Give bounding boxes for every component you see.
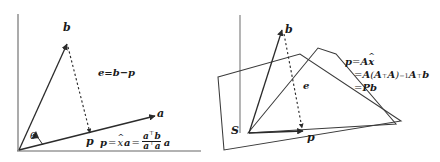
- label-vector-b-right: b: [285, 24, 293, 35]
- eq-left-equals-2: =: [132, 138, 140, 148]
- label-error-equation-left: e=b−p: [98, 68, 135, 78]
- equation-projection-subspace: p = A ^ x = A ( A⊤ A )−1 A⊤ b = P b: [345, 57, 429, 96]
- equation-projection-line: p = ^ x a = a⊤b a⊤a a: [100, 133, 170, 153]
- label-point-p-right: p: [307, 132, 315, 143]
- eq-right-P: P: [362, 83, 370, 93]
- left-panel-graphics: [17, 14, 201, 151]
- error-vector-right: [284, 34, 302, 128]
- eq-left-equals-1: =: [108, 138, 116, 148]
- eq-left-hat-mark: ^: [117, 133, 123, 141]
- eq-left-xhat-group: ^ x: [117, 138, 123, 148]
- eq-right-A-2: A: [362, 70, 370, 80]
- eq-right-A-1: A: [360, 57, 368, 67]
- vector-b-left: [19, 44, 67, 150]
- label-subspace-S: S: [231, 125, 239, 136]
- eq-right-A-4: A: [409, 70, 417, 80]
- eq-right-xhat-group: ^ x: [368, 57, 374, 67]
- eq-left-times-a: a: [124, 138, 130, 148]
- error-vector-left: [68, 47, 90, 133]
- eq-right-A-transpose: A: [374, 70, 382, 80]
- eq-right-b-2: b: [422, 70, 429, 80]
- label-angle-theta: θ: [30, 131, 36, 141]
- equation-row-3: = P b: [345, 83, 429, 96]
- eq-left-denominator: a⊤a: [142, 141, 161, 151]
- label-error-e-right: e: [303, 81, 309, 91]
- eq-right-lhs-p: p: [345, 57, 352, 67]
- eq-left-fraction: a⊤b a⊤a: [142, 132, 162, 152]
- label-vector-a-left: a: [157, 108, 164, 119]
- eq-left-num-b: b: [154, 131, 160, 141]
- figure-canvas: b a p θ e=b−p p = ^ x a = a⊤b a⊤a a b p …: [0, 0, 440, 162]
- eq-right-b-3: b: [370, 83, 377, 93]
- eq-left-den-a2: a: [155, 141, 161, 151]
- label-vector-b-left: b: [63, 22, 71, 33]
- eq-right-hat-mark: ^: [368, 52, 374, 60]
- label-point-p-left: p: [86, 136, 94, 147]
- vector-b-right: [249, 30, 282, 133]
- eq-left-trailing-a: a: [164, 138, 170, 148]
- eq-left-lhs: p: [100, 138, 107, 148]
